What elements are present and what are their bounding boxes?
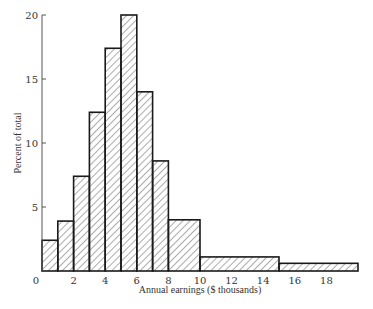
x-tick-label: 18 (320, 275, 333, 286)
x-tick-label: 16 (288, 275, 301, 286)
histogram-bar (168, 220, 200, 271)
y-tick-label: 15 (25, 74, 38, 85)
histogram-bar (74, 176, 90, 271)
x-tick-label: 2 (70, 275, 76, 286)
x-tick-label: 0 (33, 275, 39, 286)
histogram-bar (89, 112, 105, 271)
histogram-bars (42, 15, 358, 271)
y-tick-label: 5 (32, 202, 38, 213)
histogram-bar (279, 263, 358, 271)
y-tick-label: 10 (25, 138, 38, 149)
y-axis-label: Percent of total (12, 112, 23, 173)
histogram-chart: 5101520 024681012141618 Annual earnings … (0, 0, 373, 309)
histogram-bar (42, 240, 58, 271)
histogram-bar (105, 48, 121, 271)
x-axis-label: Annual earnings ($ thousands) (139, 284, 261, 296)
histogram-bar (153, 161, 169, 271)
x-tick-label: 4 (102, 275, 108, 286)
histogram-bar (137, 92, 153, 271)
histogram-bar (200, 257, 279, 271)
y-axis-ticks: 5101520 (25, 10, 46, 213)
histogram-bar (121, 15, 137, 271)
histogram-bar (58, 221, 74, 271)
y-tick-label: 20 (25, 10, 38, 21)
